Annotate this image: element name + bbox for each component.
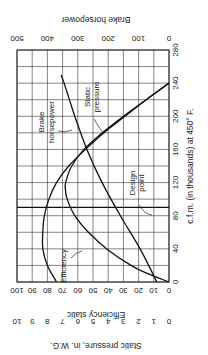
annotation-point: point	[137, 174, 146, 192]
bhp-tick-label: 0	[166, 34, 171, 43]
efficiency-tick-label: 30	[118, 286, 127, 295]
arrow-bhp	[58, 130, 72, 132]
efficiency-tick-label: 10	[149, 286, 158, 295]
efficiency-tick-label: 20	[134, 286, 143, 295]
static-pressure-tick-label: 9	[29, 317, 34, 326]
x-tick-label: 240	[171, 76, 180, 90]
efficiency-tick-label: 40	[103, 286, 112, 295]
static-pressure-tick-label: 2	[136, 317, 141, 326]
static-pressure-tick-label: 8	[45, 317, 50, 326]
bhp-tick-label: 300	[71, 34, 85, 43]
bhp-tick-label: 500	[10, 34, 24, 43]
arrow-sp	[94, 119, 103, 133]
bhp-tick-label: 100	[131, 34, 145, 43]
static-pressure-axis-title: Static pressure, in. W.G.	[50, 341, 142, 351]
x-axis-title: c.f.m. (in thousands) at 450° F.	[185, 108, 195, 223]
x-tick-label: 40	[171, 244, 180, 253]
x-tick-label: 200	[171, 109, 180, 123]
x-tick-label: 80	[171, 211, 180, 220]
efficiency-tick-label: 100	[10, 286, 24, 295]
annotation-static: Static	[83, 87, 92, 107]
x-tick-label: 0	[171, 279, 180, 284]
static-pressure-tick-label: 7	[60, 317, 65, 326]
efficiency-tick-label: 90	[27, 286, 36, 295]
static-pressure-tick-label: 1	[151, 317, 156, 326]
efficiency-tick-label: 0	[166, 286, 171, 295]
static-pressure-tick-label: 10	[12, 317, 21, 326]
bhp-tick-label: 400	[40, 34, 54, 43]
efficiency-tick-label: 60	[73, 286, 82, 295]
efficiency-tick-label: 80	[42, 286, 51, 295]
annotation-design: Design	[128, 171, 137, 196]
bhp-tick-label: 200	[101, 34, 115, 43]
fan-performance-chart: 0408012016020024028001020304050607080901…	[0, 0, 208, 355]
static-pressure-tick-label: 0	[166, 317, 171, 326]
chart-svg: 0408012016020024028001020304050607080901…	[0, 0, 208, 355]
annotation-brake: Brake	[37, 111, 46, 132]
x-tick-label: 280	[171, 43, 180, 57]
efficiency-axis-title: Efficiency static	[66, 310, 125, 320]
efficiency-tick-label: 70	[58, 286, 67, 295]
arrow-eff	[71, 251, 82, 258]
x-tick-label: 120	[171, 175, 180, 189]
bhp-axis-title: Brake horsepower	[61, 15, 130, 25]
arrow-dp	[139, 205, 152, 215]
annotation-efficiency: Efficiency	[59, 249, 68, 283]
annotation-pressure: pressure	[92, 81, 101, 113]
annotation-horsepower: horsepower	[47, 101, 56, 143]
efficiency-tick-label: 50	[88, 286, 97, 295]
x-tick-label: 160	[171, 142, 180, 156]
